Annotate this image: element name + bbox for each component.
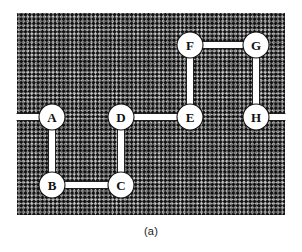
node-label-e: E: [186, 110, 195, 125]
graph-node-f[interactable]: F: [177, 32, 203, 58]
node-label-c: C: [116, 178, 125, 193]
graph-node-e[interactable]: E: [177, 104, 203, 130]
node-label-f: F: [186, 38, 194, 53]
node-label-d: D: [116, 110, 125, 125]
node-label-a: A: [47, 110, 57, 125]
graph-node-d[interactable]: D: [108, 104, 134, 130]
graph-node-c[interactable]: C: [108, 172, 134, 198]
graph-node-a[interactable]: A: [39, 104, 65, 130]
graph-diagram: ABCDEFGH: [0, 0, 302, 252]
node-label-g: G: [251, 38, 261, 53]
figure-container: ABCDEFGH (a): [0, 0, 302, 252]
graph-node-g[interactable]: G: [243, 32, 269, 58]
graph-node-b[interactable]: B: [39, 172, 65, 198]
graph-node-h[interactable]: H: [243, 104, 269, 130]
node-label-b: B: [48, 178, 57, 193]
figure-caption: (a): [0, 224, 302, 238]
node-label-h: H: [251, 110, 261, 125]
